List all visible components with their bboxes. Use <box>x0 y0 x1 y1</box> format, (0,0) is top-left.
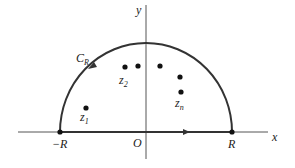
arrow-right-icon <box>183 129 190 135</box>
right-end-label: R <box>227 137 236 151</box>
x-axis-label: x <box>271 130 278 144</box>
label-zn: zn <box>174 96 184 112</box>
point-5 <box>177 74 182 79</box>
endpoint-left <box>57 129 62 134</box>
origin-label: O <box>133 136 142 150</box>
point-4 <box>157 63 162 68</box>
label-z2: z2 <box>118 73 128 89</box>
point-3 <box>135 63 140 68</box>
left-end-label: −R <box>52 137 68 151</box>
endpoint-right <box>229 129 234 134</box>
y-axis-label: y <box>135 3 142 17</box>
contour-diagram: y x O −R R CR z1 z2 zn <box>0 0 295 168</box>
contour-label: CR <box>76 51 89 67</box>
point-zn <box>178 89 183 94</box>
point-z2 <box>122 64 127 69</box>
label-z1: z1 <box>79 110 89 126</box>
